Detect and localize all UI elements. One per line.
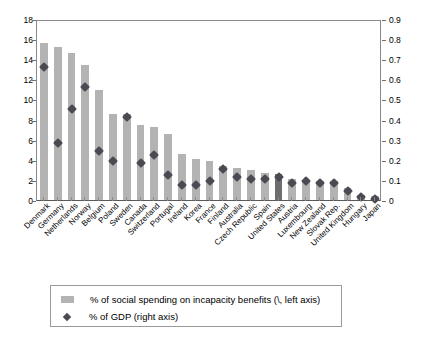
y-right-tick-label: 0.4	[389, 116, 401, 125]
y-right-tick-mark	[382, 201, 386, 202]
legend-item-gdp: % of GDP (right axis)	[51, 308, 341, 325]
y-left-tick-mark	[32, 80, 36, 81]
x-tick-mark	[153, 197, 154, 201]
bar-switzerland	[150, 127, 158, 200]
x-tick-mark	[305, 197, 306, 201]
x-tick-mark	[57, 197, 58, 201]
y-right-tick-mark	[382, 141, 386, 142]
y-right-tick-label: 0.2	[389, 157, 401, 166]
x-tick-mark	[195, 197, 196, 201]
y-right-tick-mark	[382, 40, 386, 41]
x-tick-mark	[319, 197, 320, 201]
y-left-tick-mark	[32, 181, 36, 182]
y-right-tick-mark	[382, 181, 386, 182]
bar-netherlands	[68, 53, 76, 200]
x-tick-mark	[167, 197, 168, 201]
x-tick-mark	[140, 197, 141, 201]
y-left-tick-mark	[32, 100, 36, 101]
x-tick-mark	[250, 197, 251, 201]
legend-item-bars: % of social spending on incapacity benef…	[51, 291, 341, 308]
plot-area	[36, 20, 381, 201]
bar-ireland	[178, 154, 186, 200]
y-left-tick-mark	[32, 121, 36, 122]
x-tick-mark	[360, 197, 361, 201]
y-right-tick-mark	[382, 161, 386, 162]
x-tick-mark	[264, 197, 265, 201]
x-tick-mark	[181, 197, 182, 201]
x-tick-mark	[209, 197, 210, 201]
y-right-tick-label: 0.6	[389, 76, 401, 85]
x-tick-mark	[236, 197, 237, 201]
y-right-tick-label: 0.5	[389, 96, 401, 105]
y-right-tick-label: 0.1	[389, 177, 401, 186]
y-right-tick-label: 0.7	[389, 56, 401, 65]
y-left-tick-mark	[32, 60, 36, 61]
y-left-tick-mark	[32, 40, 36, 41]
x-tick-mark	[98, 197, 99, 201]
y-right-tick-label: 0.9	[389, 16, 401, 25]
y-right-tick-mark	[382, 80, 386, 81]
x-tick-mark	[43, 197, 44, 201]
legend-label-bars: % of social spending on incapacity benef…	[90, 294, 320, 305]
x-tick-mark	[126, 197, 127, 201]
chart-legend: % of social spending on incapacity benef…	[50, 285, 342, 327]
x-tick-mark	[374, 197, 375, 201]
legend-label-gdp: % of GDP (right axis)	[89, 311, 178, 322]
y-left-tick-mark	[32, 20, 36, 21]
y-right-tick-label: 0.3	[389, 136, 401, 145]
y-right-tick-mark	[382, 60, 386, 61]
x-tick-mark	[222, 197, 223, 201]
x-tick-mark	[333, 197, 334, 201]
bar-sweden	[123, 114, 131, 200]
chart-figure: 024681012141618 00.10.20.30.40.50.60.70.…	[0, 0, 432, 338]
y-right-tick-mark	[382, 100, 386, 101]
bar-swatch-icon	[61, 296, 74, 303]
x-axis-categories: DenmarkGermanyNetherlandsNorwayBelgiumPo…	[36, 202, 381, 280]
bar-germany	[54, 47, 62, 200]
y-left-tick-mark	[32, 161, 36, 162]
diamond-marker-icon	[63, 312, 71, 320]
y-right-tick-label: 0.8	[389, 36, 401, 45]
x-tick-mark	[112, 197, 113, 201]
x-tick-mark	[71, 197, 72, 201]
y-right-tick-mark	[382, 121, 386, 122]
x-tick-mark	[291, 197, 292, 201]
x-tick-mark	[347, 197, 348, 201]
y-right-tick-label: 0	[389, 197, 394, 206]
bar-portugal	[164, 134, 172, 200]
x-tick-mark	[84, 197, 85, 201]
y-right-tick-mark	[382, 20, 386, 21]
x-tick-mark	[278, 197, 279, 201]
y-left-tick-mark	[32, 141, 36, 142]
